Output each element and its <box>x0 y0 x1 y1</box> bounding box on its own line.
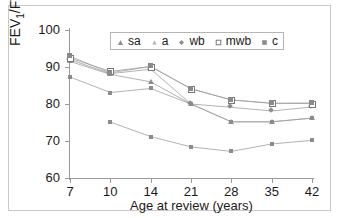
x-tick-label: 10 <box>90 185 130 198</box>
y-tick-label: 100 <box>26 23 60 36</box>
x-tick-label: 42 <box>292 185 332 198</box>
y-tick-label: 90 <box>26 60 60 73</box>
x-tick <box>110 178 111 183</box>
x-tick-label: 7 <box>50 185 90 198</box>
y-tick <box>65 67 70 68</box>
y-tick <box>65 30 70 31</box>
x-tick-label: 21 <box>171 185 211 198</box>
y-tick-label: 70 <box>26 134 60 147</box>
series-line-a <box>70 77 312 122</box>
x-tick <box>191 178 192 183</box>
series-line-low <box>110 122 312 151</box>
x-tick <box>231 178 232 183</box>
x-tick-label: 14 <box>131 185 171 198</box>
x-tick <box>272 178 273 183</box>
x-tick <box>151 178 152 183</box>
y-tick <box>65 104 70 105</box>
y-axis-title: FEV1/FVC <box>7 0 26 46</box>
y-tick-label: 60 <box>26 171 60 184</box>
x-tick <box>312 178 313 183</box>
chart-frame: FEV1/FVC Age at review (years) sa a wb <box>8 5 331 211</box>
series-line-c <box>70 56 312 103</box>
y-tick-label: 80 <box>26 97 60 110</box>
x-tick <box>70 178 71 183</box>
y-tick <box>65 141 70 142</box>
y-axis-title-post: /FVC <box>7 0 23 13</box>
x-tick-label: 35 <box>252 185 292 198</box>
y-axis-title-pre: FEV <box>7 19 23 46</box>
series-line-mwb <box>70 58 312 104</box>
plot-area: 10090807060 7101421283542 <box>70 30 312 178</box>
x-axis-title: Age at review (years) <box>69 198 314 213</box>
y-axis-title-sub: 1 <box>15 13 26 19</box>
x-tick-label: 28 <box>211 185 251 198</box>
